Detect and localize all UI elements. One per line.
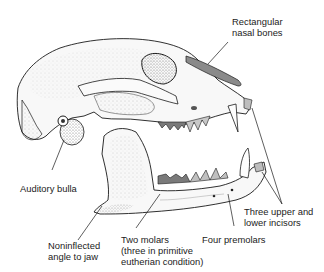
upper-canine	[228, 104, 238, 132]
label-molars: Two molars (three in primitive eutherian…	[121, 234, 203, 267]
label-auditory-bulla: Auditory bulla	[20, 183, 77, 194]
cranium	[17, 39, 250, 145]
skull-illustration	[0, 0, 324, 272]
label-nasal-bones: Rectangular nasal bones	[232, 16, 283, 38]
label-incisors: Three upper and lower incisors	[244, 206, 313, 228]
skull-diagram: Rectangular nasal bones Auditory bulla N…	[0, 0, 324, 272]
label-jaw-angle: Noninflected angle to jaw	[48, 240, 100, 262]
lower-canine	[240, 148, 250, 178]
label-premolars: Four premolars	[202, 234, 266, 245]
